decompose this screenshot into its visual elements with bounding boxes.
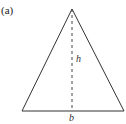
base-label: b	[69, 112, 74, 123]
triangle-outline	[22, 9, 124, 111]
triangle-diagram	[0, 0, 126, 124]
height-label: h	[76, 53, 81, 64]
